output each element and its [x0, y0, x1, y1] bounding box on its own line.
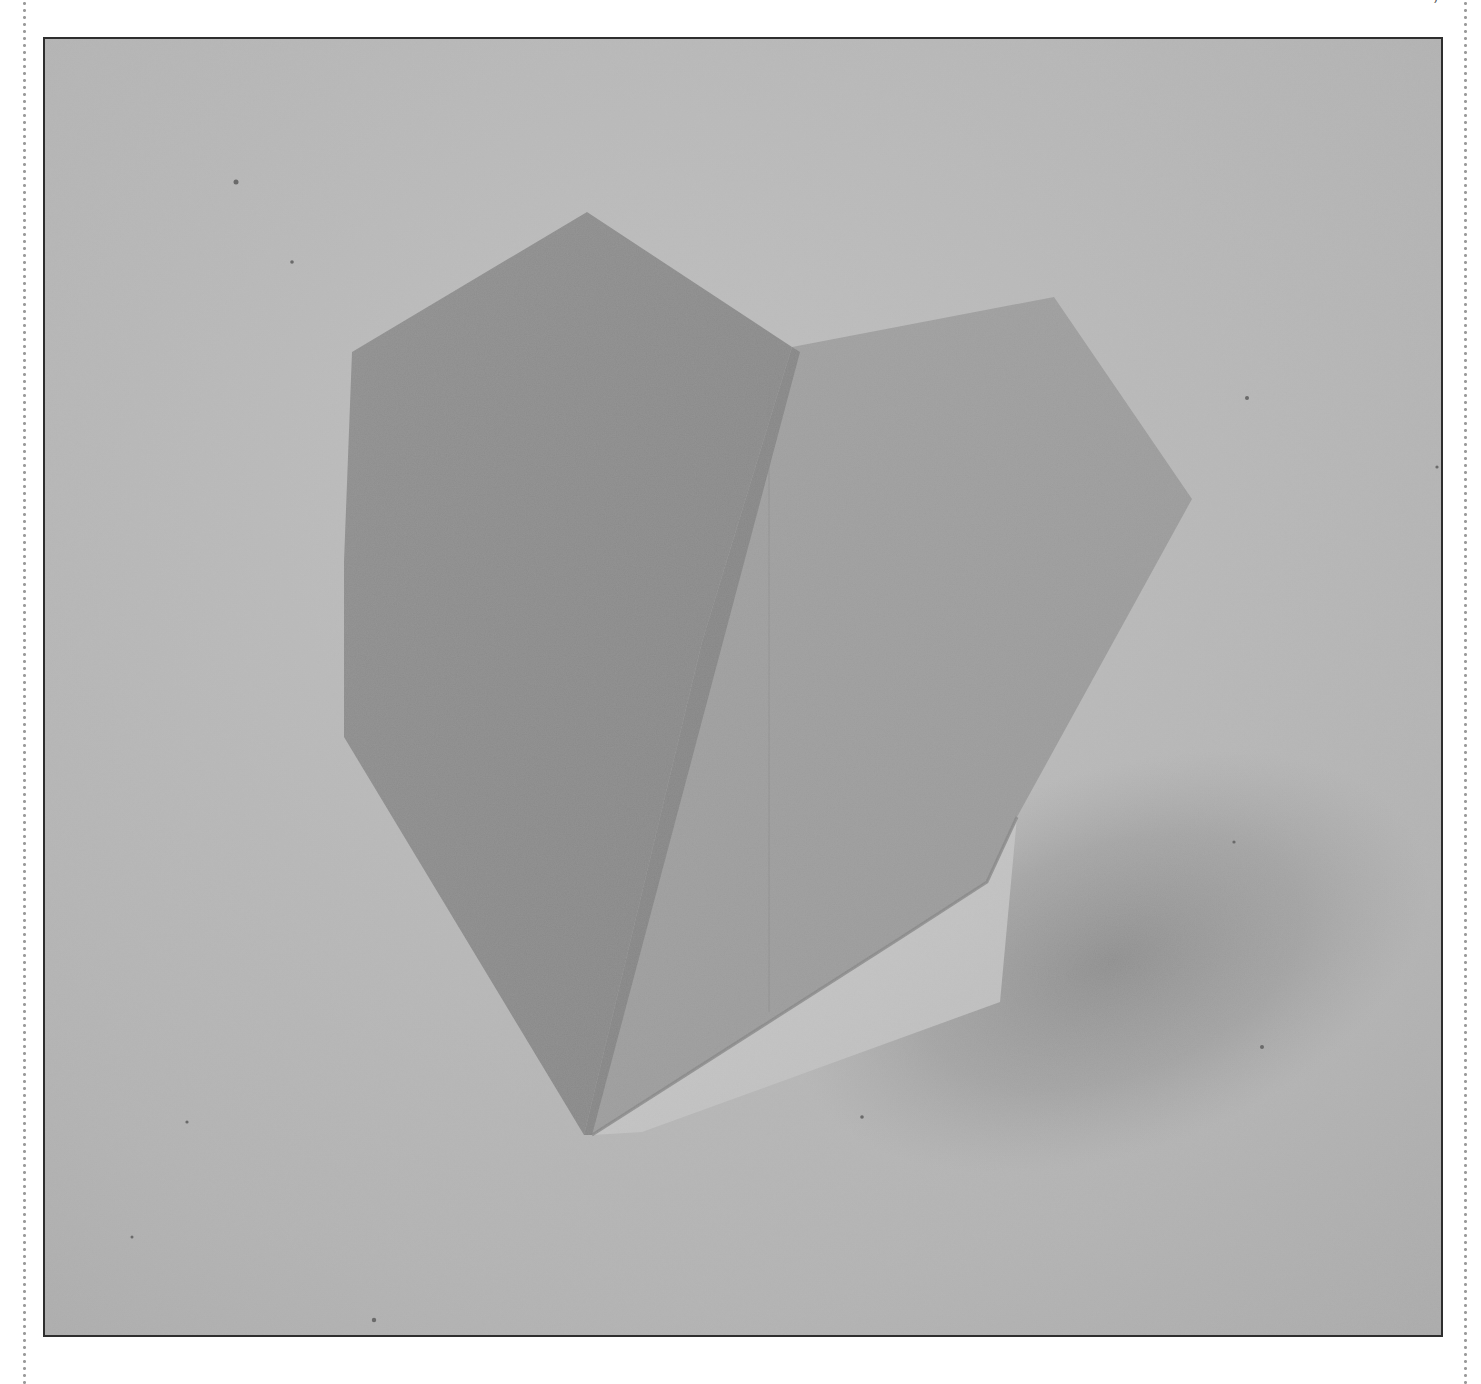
right-margin-dotted-rule [1464, 0, 1467, 1384]
photo-grain-overlay [45, 39, 1441, 1335]
photo-figure [43, 37, 1443, 1337]
origami-heart-photo [45, 39, 1441, 1335]
clipped-caption-fragment: ) [1433, 0, 1438, 3]
left-margin-dotted-rule [23, 0, 26, 1384]
